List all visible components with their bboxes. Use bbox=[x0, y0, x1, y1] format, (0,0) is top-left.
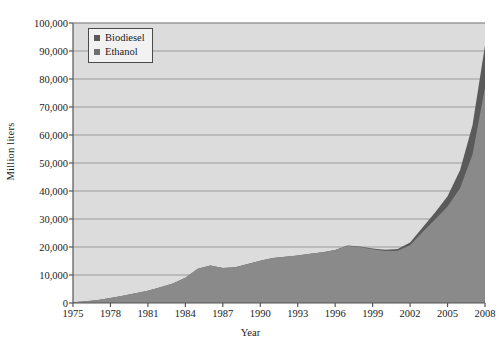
x-tick-label: 1993 bbox=[287, 308, 308, 319]
legend-label-ethanol: Ethanol bbox=[105, 46, 138, 58]
x-tick-label: 1981 bbox=[137, 308, 158, 319]
y-tick-label: 20,000 bbox=[39, 242, 68, 253]
stacked-area-chart: Million liters 010,00020,00030,00040,000… bbox=[0, 0, 501, 351]
chart-legend: Biodiesel Ethanol bbox=[88, 28, 153, 63]
legend-swatch-ethanol bbox=[94, 49, 100, 55]
plot-area bbox=[0, 0, 501, 351]
x-tick-label: 1978 bbox=[100, 308, 121, 319]
y-axis-tick-labels: 010,00020,00030,00040,00050,00060,00070,… bbox=[0, 0, 68, 351]
legend-label-biodiesel: Biodiesel bbox=[105, 32, 145, 44]
x-tick-label: 1990 bbox=[250, 308, 271, 319]
x-tick-label: 1999 bbox=[362, 308, 383, 319]
x-axis-title-label: Year bbox=[241, 327, 260, 338]
y-tick-label: 0 bbox=[63, 298, 68, 309]
x-axis-title: Year bbox=[0, 327, 501, 338]
x-tick-label: 1975 bbox=[63, 308, 84, 319]
y-tick-label: 30,000 bbox=[39, 214, 68, 225]
legend-item-biodiesel: Biodiesel bbox=[94, 32, 145, 44]
x-tick-label: 1984 bbox=[175, 308, 196, 319]
x-tick-label: 2008 bbox=[475, 308, 496, 319]
y-tick-label: 80,000 bbox=[39, 74, 68, 85]
y-tick-label: 90,000 bbox=[39, 46, 68, 57]
x-tick-label: 2005 bbox=[437, 308, 458, 319]
legend-swatch-biodiesel bbox=[94, 35, 100, 41]
x-tick-label: 2002 bbox=[400, 308, 421, 319]
y-tick-label: 100,000 bbox=[34, 18, 68, 29]
y-tick-label: 10,000 bbox=[39, 270, 68, 281]
y-tick-label: 70,000 bbox=[39, 102, 68, 113]
x-tick-label: 1996 bbox=[325, 308, 346, 319]
x-tick-label: 1987 bbox=[212, 308, 233, 319]
legend-item-ethanol: Ethanol bbox=[94, 46, 145, 58]
y-tick-label: 60,000 bbox=[39, 130, 68, 141]
y-tick-label: 40,000 bbox=[39, 186, 68, 197]
y-tick-label: 50,000 bbox=[39, 158, 68, 169]
